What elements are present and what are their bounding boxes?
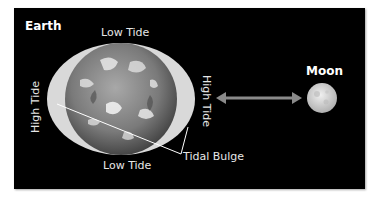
moon: [307, 83, 337, 113]
low-tide-bottom-label: Low Tide: [103, 160, 151, 172]
moon-label: Moon: [306, 65, 343, 77]
high-tide-right-label: High Tide: [200, 71, 212, 131]
earth-label: Earth: [25, 20, 62, 32]
low-tide-top-label: Low Tide: [101, 27, 149, 39]
tidal-bulge-label: Tidal Bulge: [183, 151, 244, 163]
double-arrow-icon: [216, 92, 302, 104]
earth-globe: [65, 43, 177, 155]
high-tide-left-label: High Tide: [30, 77, 42, 137]
